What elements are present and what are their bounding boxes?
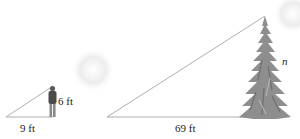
- small-triangle: [6, 86, 53, 117]
- large-triangle: [107, 16, 265, 117]
- pine-tree-icon: [239, 16, 291, 119]
- sun-glow-icon: [71, 48, 115, 92]
- person-height-label: 6 ft: [58, 96, 73, 107]
- tree-shadow-label: 69 ft: [175, 123, 195, 134]
- diagram-canvas: [0, 0, 300, 139]
- person-shadow-label: 9 ft: [20, 123, 35, 134]
- similar-triangles-diagram: 6 ft 9 ft 69 ft n: [0, 0, 300, 139]
- tree-height-label: n: [282, 56, 288, 67]
- person-icon: [49, 86, 57, 117]
- sun-glow-icon: [273, 0, 300, 34]
